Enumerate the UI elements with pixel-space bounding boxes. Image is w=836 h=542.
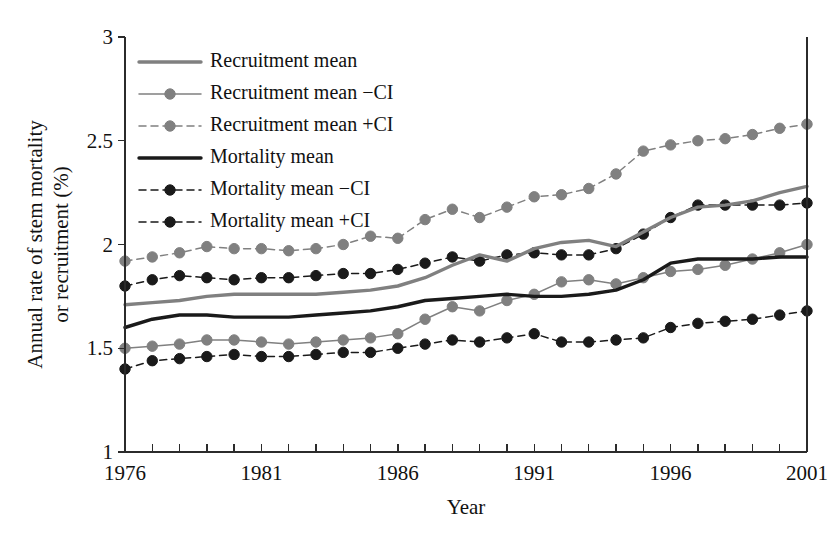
y-tick-label: 2 [103, 233, 114, 257]
data-point-recruitment-mean-minus-ci [338, 335, 348, 345]
data-point-mortality-mean-plus-ci [393, 264, 403, 274]
data-point-recruitment-mean-plus-ci [174, 248, 184, 258]
legend-marker-mortality-mean-minus-ci [165, 185, 175, 195]
data-point-mortality-mean-plus-ci [420, 258, 430, 268]
legend-marker-mortality-mean-plus-ci [165, 217, 175, 227]
data-point-recruitment-mean-minus-ci [556, 277, 566, 287]
legend-marker-recruitment-mean-minus-ci [165, 89, 175, 99]
data-point-recruitment-mean-plus-ci [229, 243, 239, 253]
data-point-recruitment-mean-minus-ci [283, 339, 293, 349]
x-axis-title: Year [447, 495, 486, 519]
y-tick-label: 1.5 [87, 336, 113, 360]
data-point-recruitment-mean-plus-ci [529, 192, 539, 202]
data-point-recruitment-mean-plus-ci [693, 136, 703, 146]
x-tick-label: 1981 [240, 461, 282, 485]
data-point-mortality-mean-minus-ci [693, 318, 703, 328]
data-point-recruitment-mean-minus-ci [147, 341, 157, 351]
data-point-recruitment-mean-minus-ci [311, 337, 321, 347]
data-point-mortality-mean-minus-ci [393, 343, 403, 353]
legend-item-recruitment-mean-plus-ci[interactable]: Recruitment mean +CI [139, 113, 393, 135]
y-tick-label: 2.5 [87, 129, 113, 153]
data-point-mortality-mean-minus-ci [584, 337, 594, 347]
data-point-recruitment-mean-plus-ci [720, 133, 730, 143]
legend-label-recruitment-mean: Recruitment mean [210, 49, 357, 71]
data-point-recruitment-mean-minus-ci [174, 339, 184, 349]
data-point-recruitment-mean-plus-ci [393, 233, 403, 243]
chart-figure: 11.522.53197619811986199119962001 YearAn… [0, 0, 836, 542]
data-point-recruitment-mean-plus-ci [202, 241, 212, 251]
data-point-mortality-mean-plus-ci [775, 200, 785, 210]
data-point-recruitment-mean-minus-ci [474, 306, 484, 316]
legend-label-mortality-mean-minus-ci: Mortality mean −CI [210, 177, 370, 200]
data-point-mortality-mean-minus-ci [338, 347, 348, 357]
series-mortality-mean [125, 257, 807, 328]
data-point-recruitment-mean-plus-ci [584, 183, 594, 193]
data-point-recruitment-mean-minus-ci [256, 337, 266, 347]
legend-item-mortality-mean-minus-ci[interactable]: Mortality mean −CI [139, 177, 370, 200]
data-point-recruitment-mean-plus-ci [420, 214, 430, 224]
data-point-recruitment-mean-plus-ci [311, 243, 321, 253]
data-point-recruitment-mean-minus-ci [502, 295, 512, 305]
data-point-recruitment-mean-plus-ci [775, 123, 785, 133]
data-point-recruitment-mean-plus-ci [338, 239, 348, 249]
data-point-recruitment-mean-minus-ci [584, 275, 594, 285]
data-point-mortality-mean-plus-ci [584, 250, 594, 260]
data-point-recruitment-mean-plus-ci [447, 204, 457, 214]
data-point-recruitment-mean-plus-ci [147, 252, 157, 262]
data-point-mortality-mean-minus-ci [365, 347, 375, 357]
data-point-mortality-mean-minus-ci [202, 351, 212, 361]
data-point-recruitment-mean-minus-ci [365, 333, 375, 343]
x-tick-label: 1991 [513, 461, 555, 485]
data-point-recruitment-mean-plus-ci [556, 190, 566, 200]
data-point-mortality-mean-plus-ci [338, 268, 348, 278]
legend-item-recruitment-mean-minus-ci[interactable]: Recruitment mean −CI [139, 81, 393, 103]
data-point-mortality-mean-minus-ci [147, 356, 157, 366]
data-point-mortality-mean-minus-ci [420, 339, 430, 349]
legend-label-recruitment-mean-plus-ci: Recruitment mean +CI [210, 113, 393, 135]
data-point-recruitment-mean-minus-ci [393, 329, 403, 339]
data-point-mortality-mean-minus-ci [775, 310, 785, 320]
data-point-recruitment-mean-plus-ci [611, 169, 621, 179]
data-point-mortality-mean-minus-ci [665, 322, 675, 332]
data-point-recruitment-mean-minus-ci [693, 264, 703, 274]
data-point-recruitment-mean-plus-ci [256, 243, 266, 253]
data-point-recruitment-mean-plus-ci [365, 231, 375, 241]
data-point-mortality-mean-minus-ci [502, 333, 512, 343]
data-point-mortality-mean-plus-ci [365, 268, 375, 278]
data-point-mortality-mean-minus-ci [283, 351, 293, 361]
y-axis-title-line-1: Annual rate of stem mortality [23, 120, 47, 369]
data-point-mortality-mean-plus-ci [311, 270, 321, 280]
data-point-recruitment-mean-minus-ci [420, 314, 430, 324]
legend-label-mortality-mean: Mortality mean [210, 145, 334, 168]
data-point-mortality-mean-minus-ci [747, 314, 757, 324]
series-line-recruitment-mean [125, 186, 807, 304]
data-point-mortality-mean-plus-ci [202, 273, 212, 283]
data-point-mortality-mean-minus-ci [256, 351, 266, 361]
data-point-recruitment-mean-plus-ci [502, 202, 512, 212]
chart-legend: Recruitment meanRecruitment mean −CIRecr… [139, 49, 393, 232]
data-point-mortality-mean-plus-ci [174, 270, 184, 280]
data-point-mortality-mean-plus-ci [447, 252, 457, 262]
x-tick-label: 1976 [104, 461, 146, 485]
data-point-mortality-mean-plus-ci [147, 275, 157, 285]
legend-label-mortality-mean-plus-ci: Mortality mean +CI [210, 209, 370, 232]
y-tick-label: 3 [103, 25, 114, 49]
legend-item-recruitment-mean[interactable]: Recruitment mean [139, 49, 357, 71]
data-point-recruitment-mean-plus-ci [747, 129, 757, 139]
data-point-mortality-mean-minus-ci [638, 333, 648, 343]
x-tick-label: 1986 [377, 461, 419, 485]
data-point-mortality-mean-plus-ci [256, 273, 266, 283]
data-point-mortality-mean-minus-ci [556, 337, 566, 347]
line-chart: 11.522.53197619811986199119962001 YearAn… [0, 0, 836, 542]
data-point-mortality-mean-minus-ci [529, 329, 539, 339]
data-point-mortality-mean-minus-ci [229, 349, 239, 359]
legend-item-mortality-mean[interactable]: Mortality mean [139, 145, 334, 168]
data-point-recruitment-mean-plus-ci [665, 140, 675, 150]
data-point-mortality-mean-minus-ci [720, 316, 730, 326]
legend-label-recruitment-mean-minus-ci: Recruitment mean −CI [210, 81, 393, 103]
legend-item-mortality-mean-plus-ci[interactable]: Mortality mean +CI [139, 209, 370, 232]
data-point-recruitment-mean-minus-ci [202, 335, 212, 345]
x-tick-label: 2001 [786, 461, 828, 485]
data-point-recruitment-mean-minus-ci [229, 335, 239, 345]
data-point-recruitment-mean-plus-ci [283, 246, 293, 256]
